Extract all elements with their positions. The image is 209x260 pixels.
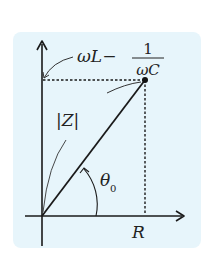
magnitude-label: |Z| xyxy=(56,110,79,130)
x-axis xyxy=(25,211,184,221)
magnitude-pointer xyxy=(43,140,66,212)
resistance-label: R xyxy=(131,222,145,242)
angle-label: θ xyxy=(100,170,110,190)
impedance-vector xyxy=(42,80,145,216)
angle-arc xyxy=(80,168,97,216)
angle-subscript: 0 xyxy=(110,183,116,194)
reactance-numerator: 1 xyxy=(143,40,153,58)
phasor-diagram: ωL− 1 ωC |Z| θ 0 R xyxy=(0,0,209,260)
reactance-denominator: ωC xyxy=(136,61,160,79)
reactance-label: ωL− xyxy=(77,46,116,66)
